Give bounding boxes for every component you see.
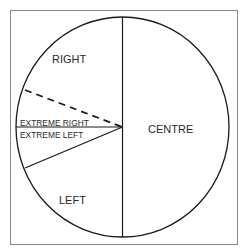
label-left: LEFT <box>59 194 86 206</box>
label-extreme-left: EXTREME LEFT <box>20 130 83 140</box>
label-extreme-right: EXTREME RIGHT <box>20 118 89 128</box>
diagram-canvas: RIGHT EXTREME RIGHT EXTREME LEFT CENTRE … <box>0 0 244 252</box>
label-right: RIGHT <box>52 53 87 65</box>
label-centre: CENTRE <box>148 123 193 135</box>
